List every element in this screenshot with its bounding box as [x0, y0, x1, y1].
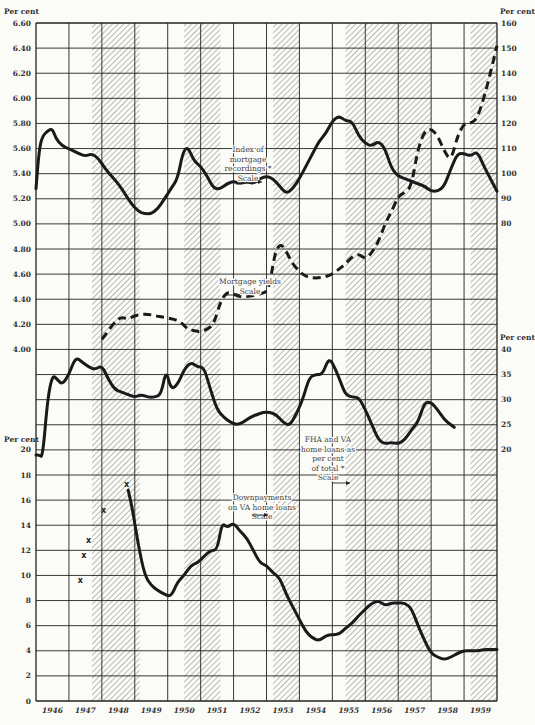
- y-tick-label: 6.40: [13, 44, 31, 53]
- shaded-period: [346, 23, 432, 701]
- y-tick-label: 16: [21, 496, 31, 505]
- shaded-period: [273, 23, 299, 701]
- y-tick-label: 4.80: [13, 245, 31, 254]
- y-tick-label: 25: [501, 420, 511, 429]
- data-marker-x: x: [101, 506, 107, 515]
- y-tick-label: 110: [501, 144, 517, 153]
- x-tick-label: 1959: [470, 706, 492, 715]
- x-tick-label: 1952: [240, 706, 261, 715]
- data-marker-x: x: [78, 576, 84, 585]
- y-tick-label: 14: [21, 521, 31, 530]
- series-annotation: of total *: [311, 464, 344, 473]
- x-tick-label: 1956: [371, 706, 393, 715]
- series-annotation: Scale: [252, 512, 273, 521]
- y-tick-label: 5.80: [13, 119, 31, 128]
- series-annotation: Scale: [238, 174, 259, 183]
- y-tick-label: 140: [501, 69, 517, 78]
- y-tick-label: 150: [501, 44, 517, 53]
- x-tick-label: 1948: [108, 706, 130, 715]
- series-annotation: mortgage: [230, 155, 267, 164]
- axis-unit-label: Per cent: [4, 7, 40, 16]
- y-tick-label: 10: [21, 571, 31, 580]
- shaded-period: [471, 23, 497, 701]
- axis-unit-label: Per cent: [4, 435, 40, 444]
- x-tick-label: 1947: [75, 706, 97, 715]
- y-tick-label: 18: [21, 471, 31, 480]
- series-annotation: on VA home loans: [228, 503, 296, 512]
- x-tick-label: 1949: [141, 706, 163, 715]
- y-tick-label: 5.00: [13, 219, 31, 228]
- series-annotation: FHA and VA: [305, 435, 352, 444]
- data-marker-x: x: [81, 551, 87, 560]
- y-tick-label: 35: [501, 370, 511, 379]
- y-tick-label: 100: [501, 169, 517, 178]
- shaded-period: [184, 23, 220, 701]
- y-tick-label: 0: [26, 697, 31, 706]
- series-annotation: recordings *: [224, 164, 271, 173]
- x-tick-label: 1955: [338, 706, 359, 715]
- data-marker-x: x: [86, 536, 92, 545]
- data-marker-x: x: [124, 480, 130, 489]
- y-tick-label: 8: [26, 596, 31, 605]
- series-annotation: home loans as: [301, 445, 355, 454]
- series-annotation: Scale: [318, 473, 339, 482]
- y-tick-label: 6.20: [13, 69, 31, 78]
- series-annotation: Downpayments: [233, 493, 292, 502]
- y-tick-label: 4: [26, 646, 31, 655]
- series-annotation: Index of: [233, 145, 265, 154]
- x-tick-label: 1958: [437, 706, 459, 715]
- x-tick-label: 1953: [273, 706, 294, 715]
- y-tick-label: 90: [501, 194, 511, 203]
- shaded-periods: [92, 23, 497, 701]
- y-tick-label: 4.40: [13, 295, 31, 304]
- y-tick-label: 160: [501, 19, 517, 28]
- y-tick-label: 6.60: [13, 19, 31, 28]
- y-tick-label: 5.60: [13, 144, 31, 153]
- y-tick-label: 30: [501, 395, 511, 404]
- y-tick-label: 4.60: [13, 270, 31, 279]
- x-tick-label: 1951: [207, 706, 228, 715]
- y-tick-label: 120: [501, 119, 517, 128]
- series-annotation: Scale: [240, 287, 261, 296]
- y-tick-label: 130: [501, 94, 517, 103]
- series-annotation: Mortgage yields: [219, 277, 281, 286]
- y-tick-label: 4.00: [13, 345, 31, 354]
- y-tick-label: 6: [26, 621, 31, 630]
- y-tick-label: 5.20: [13, 194, 31, 203]
- y-tick-label: 20: [501, 445, 511, 454]
- y-tick-label: 5.40: [13, 169, 31, 178]
- y-tick-label: 6.00: [13, 94, 31, 103]
- y-tick-label: 4.20: [13, 320, 31, 329]
- chart: 6.606.406.206.005.805.605.405.205.004.80…: [0, 0, 535, 725]
- y-tick-label: 40: [501, 345, 511, 354]
- y-tick-label: 80: [501, 219, 511, 228]
- shaded-period: [92, 23, 140, 701]
- x-tick-label: 1946: [42, 706, 64, 715]
- axis-unit-label: Per cent: [500, 333, 535, 342]
- axes: 6.606.406.206.005.805.605.405.205.004.80…: [4, 7, 535, 715]
- y-tick-label: 12: [21, 546, 31, 555]
- y-tick-label: 2: [26, 671, 31, 680]
- axis-unit-label: Per cent: [500, 7, 535, 16]
- y-tick-label: 20: [21, 445, 31, 454]
- x-tick-label: 1954: [305, 706, 326, 715]
- x-tick-label: 1957: [404, 706, 426, 715]
- x-tick-label: 1950: [174, 706, 196, 715]
- series-line: [128, 490, 497, 659]
- series-annotation: per cent: [312, 454, 344, 463]
